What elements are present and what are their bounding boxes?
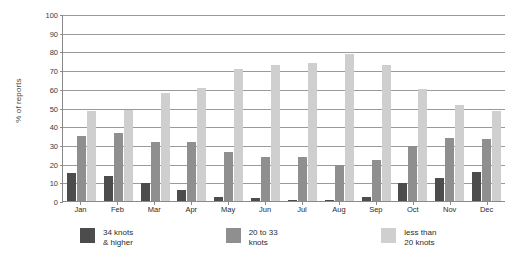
bar-group-dec <box>468 15 505 201</box>
bar[interactable] <box>492 111 501 201</box>
bar-group-feb <box>100 15 137 201</box>
x-axis-tick-label: Feb <box>99 205 136 214</box>
legend-swatch <box>80 228 95 243</box>
x-axis-tick-mark <box>450 202 451 205</box>
x-axis-tick-mark <box>302 202 303 205</box>
bar[interactable] <box>382 65 391 202</box>
bar[interactable] <box>234 69 243 201</box>
y-axis-tick-label: 0 <box>54 198 58 207</box>
bar[interactable] <box>87 111 96 201</box>
y-axis-tick-label: 80 <box>50 48 58 57</box>
y-axis-tick-label: 90 <box>50 29 58 38</box>
x-axis-tick-label: May <box>210 205 247 214</box>
bar[interactable] <box>345 54 354 201</box>
bar-group-sep <box>358 15 395 201</box>
y-axis-tick-label: 20 <box>50 160 58 169</box>
bar[interactable] <box>161 93 170 201</box>
bar[interactable] <box>418 89 427 201</box>
bar[interactable] <box>114 133 123 201</box>
bar-group-may <box>210 15 247 201</box>
bar[interactable] <box>124 110 133 201</box>
x-axis-tick-mark <box>487 202 488 205</box>
y-axis-tick-label: 100 <box>45 11 58 20</box>
bar[interactable] <box>372 160 381 201</box>
bar-groups <box>63 15 505 201</box>
x-axis-tick-text: Mar <box>148 205 161 214</box>
x-axis-tick-mark <box>80 202 81 205</box>
bar[interactable] <box>251 198 260 201</box>
bar[interactable] <box>77 136 86 201</box>
x-axis-tick-label: Dec <box>468 205 505 214</box>
x-axis-tick-text: May <box>221 205 235 214</box>
legend-item[interactable]: 20 to 33knots <box>204 228 350 262</box>
bar-group-jan <box>63 15 100 201</box>
x-axis-tick-label: Mar <box>136 205 173 214</box>
legend-label-line2: & higher <box>103 238 133 248</box>
bar[interactable] <box>177 190 186 201</box>
bar-group-jul <box>284 15 321 201</box>
y-axis-tick-label: 60 <box>50 85 58 94</box>
bar[interactable] <box>455 105 464 201</box>
wind-speed-bar-chart: % of reports 1009080706050403020100 JanF… <box>0 0 521 271</box>
bar[interactable] <box>187 142 196 201</box>
bar[interactable] <box>141 183 150 201</box>
legend-label-line1: 20 to 33 <box>249 228 278 238</box>
bar[interactable] <box>308 63 317 201</box>
legend-item[interactable]: 34 knots& higher <box>62 228 204 262</box>
bar[interactable] <box>335 165 344 201</box>
x-axis-tick-mark <box>228 202 229 205</box>
x-axis-tick-label: Oct <box>394 205 431 214</box>
bar[interactable] <box>288 200 297 201</box>
chart-legend: 34 knots& higher20 to 33knotsless than20… <box>62 228 505 262</box>
x-axis-tick-text: Feb <box>111 205 124 214</box>
bar[interactable] <box>224 152 233 201</box>
x-axis-tick-label: Nov <box>431 205 468 214</box>
bar[interactable] <box>362 197 371 201</box>
x-axis-tick-label: Jun <box>247 205 284 214</box>
bar[interactable] <box>482 139 491 201</box>
legend-label: 34 knots& higher <box>103 228 133 247</box>
x-axis-tick-text: Jun <box>259 205 271 214</box>
y-axis-tick-label: 50 <box>50 104 58 113</box>
bar[interactable] <box>472 172 481 201</box>
y-axis-tick-label: 70 <box>50 67 58 76</box>
x-axis-tick-text: Oct <box>407 205 419 214</box>
plot-area: 1009080706050403020100 <box>62 15 505 202</box>
bar[interactable] <box>197 88 206 201</box>
bar[interactable] <box>67 173 76 201</box>
legend-swatch <box>226 228 241 243</box>
bar[interactable] <box>298 157 307 201</box>
x-axis-tick-label: Aug <box>320 205 357 214</box>
x-axis-tick-mark <box>117 202 118 205</box>
legend-label: less than20 knots <box>404 228 436 247</box>
bar[interactable] <box>104 176 113 201</box>
x-axis-tick-mark <box>339 202 340 205</box>
x-axis-tick-text: Sep <box>369 205 382 214</box>
x-axis-tick-label: Jul <box>284 205 321 214</box>
bar[interactable] <box>325 200 334 201</box>
bar[interactable] <box>408 146 417 201</box>
legend-label-line2: knots <box>249 238 278 248</box>
legend-swatch <box>381 228 396 243</box>
x-axis-tick-text: Jan <box>74 205 86 214</box>
bar-group-nov <box>431 15 468 201</box>
bar[interactable] <box>435 178 444 201</box>
legend-item[interactable]: less than20 knots <box>349 228 505 262</box>
x-axis-tick-label: Sep <box>357 205 394 214</box>
bar[interactable] <box>151 142 160 201</box>
bar[interactable] <box>261 157 270 201</box>
x-axis-tick-label: Apr <box>173 205 210 214</box>
y-axis-title: % of reports <box>14 56 23 146</box>
bar-group-oct <box>394 15 431 201</box>
bar-group-mar <box>137 15 174 201</box>
bar[interactable] <box>214 197 223 201</box>
bar[interactable] <box>398 183 407 201</box>
legend-label: 20 to 33knots <box>249 228 278 247</box>
x-axis-tick-text: Jul <box>297 205 307 214</box>
legend-label-line1: 34 knots <box>103 228 133 238</box>
x-axis-tick-text: Nov <box>443 205 456 214</box>
bar[interactable] <box>445 138 454 201</box>
bar[interactable] <box>271 65 280 202</box>
x-axis-tick-mark <box>413 202 414 205</box>
bar-group-jun <box>247 15 284 201</box>
